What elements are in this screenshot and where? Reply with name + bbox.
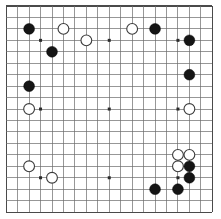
black-stone[interactable]: [47, 46, 58, 57]
hoshi-point: [39, 176, 42, 179]
white-stone[interactable]: [47, 172, 58, 183]
black-stone[interactable]: [184, 172, 195, 183]
hoshi-point: [108, 176, 111, 179]
hoshi-point: [39, 39, 42, 42]
hoshi-point: [108, 39, 111, 42]
black-stone[interactable]: [184, 161, 195, 172]
white-stone[interactable]: [81, 35, 92, 46]
white-stone[interactable]: [184, 149, 195, 160]
black-stone[interactable]: [184, 35, 195, 46]
hoshi-point: [39, 108, 42, 111]
black-stone[interactable]: [24, 81, 35, 92]
black-stone[interactable]: [150, 24, 161, 35]
black-stone[interactable]: [173, 184, 184, 195]
hoshi-point: [176, 39, 179, 42]
black-stone[interactable]: [24, 24, 35, 35]
white-stone[interactable]: [173, 149, 184, 160]
white-stone[interactable]: [24, 104, 35, 115]
hoshi-point: [176, 176, 179, 179]
white-stone[interactable]: [24, 161, 35, 172]
hoshi-point: [108, 108, 111, 111]
hoshi-point: [176, 108, 179, 111]
go-board[interactable]: [0, 0, 221, 219]
black-stone[interactable]: [184, 69, 195, 80]
black-stone[interactable]: [150, 184, 161, 195]
white-stone[interactable]: [173, 161, 184, 172]
white-stone[interactable]: [127, 24, 138, 35]
white-stone[interactable]: [58, 24, 69, 35]
goban-container[interactable]: [0, 0, 221, 219]
white-stone[interactable]: [184, 104, 195, 115]
